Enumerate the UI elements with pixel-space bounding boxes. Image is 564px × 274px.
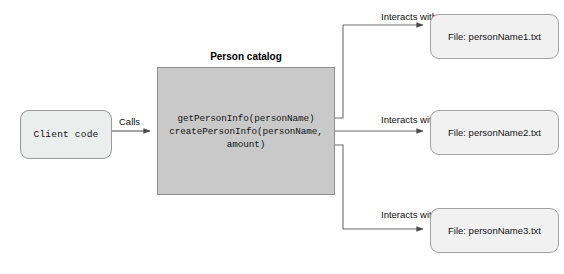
- file-3-label: File: personName3.txt: [448, 225, 541, 236]
- file-2-label: File: personName2.txt: [448, 127, 541, 138]
- file-1-label: File: personName1.txt: [448, 31, 541, 42]
- node-file-3[interactable]: File: personName3.txt: [430, 208, 559, 253]
- edge-label-interacts-2: Interacts with: [381, 114, 437, 125]
- catalog-code-line-1: getPersonInfo(personName): [178, 112, 315, 125]
- node-person-catalog[interactable]: getPersonInfo(personName) createPersonIn…: [157, 67, 335, 195]
- diagram-canvas: Client code Calls Person catalog getPers…: [0, 0, 564, 274]
- person-catalog-title: Person catalog: [157, 51, 335, 62]
- catalog-code-line-3: amount): [227, 138, 265, 151]
- catalog-code-line-2: createPersonInfo(personName,: [169, 125, 322, 138]
- node-client-code[interactable]: Client code: [20, 110, 112, 159]
- node-file-1[interactable]: File: personName1.txt: [430, 14, 559, 59]
- edge-label-interacts-1: Interacts with: [381, 11, 437, 22]
- client-code-label: Client code: [34, 129, 99, 140]
- edge-interacts-1: [335, 25, 423, 118]
- edge-label-interacts-3: Interacts with: [381, 209, 437, 220]
- edge-label-calls: Calls: [119, 116, 140, 127]
- node-file-2[interactable]: File: personName2.txt: [430, 110, 559, 155]
